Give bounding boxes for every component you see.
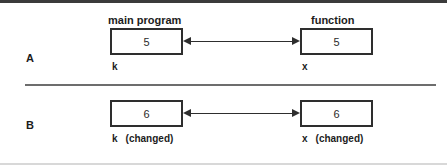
variable-label-a-right: x (302, 61, 308, 73)
double-arrow-icon-b (183, 109, 300, 118)
variable-note-b-left: (changed) (126, 133, 174, 144)
row-label-a: A (26, 52, 34, 64)
variable-label-b-right: x(changed) (302, 133, 363, 145)
variable-name-a-left: k (112, 61, 118, 72)
variable-note-b-right: (changed) (316, 133, 364, 144)
double-arrow-icon-a (183, 37, 300, 46)
variable-name-b-right: x (302, 133, 308, 144)
row-label-b: B (26, 119, 34, 131)
variable-label-a-left: k (112, 61, 118, 73)
column-title-function: function (311, 14, 354, 26)
arrowhead-right-icon (292, 37, 300, 45)
top-rule (0, 0, 447, 3)
section-divider-rule (25, 84, 436, 86)
arrow-shaft (190, 113, 293, 114)
variable-name-a-right: x (302, 61, 308, 72)
variable-name-b-left: k (112, 133, 118, 144)
arrowhead-right-icon (292, 109, 300, 117)
variable-label-b-left: k(changed) (112, 133, 173, 145)
value-box-b-left: 6 (110, 100, 183, 127)
arrow-shaft (190, 41, 293, 42)
column-title-main-program: main program (108, 14, 181, 26)
value-box-a-right: 5 (300, 28, 373, 55)
bottom-rule (0, 163, 447, 165)
value-box-a-left: 5 (110, 28, 183, 55)
value-box-b-right: 6 (300, 100, 373, 127)
reference-parameter-diagram: A main program function 5 5 k x B 6 6 k(… (0, 0, 447, 167)
